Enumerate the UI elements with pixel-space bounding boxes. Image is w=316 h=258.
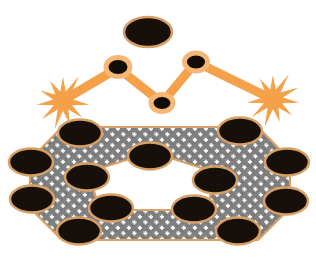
ellipse-top-right [218, 118, 262, 145]
node-peak-right [185, 53, 208, 71]
ellipse-top-left [58, 120, 102, 147]
node-valley-middle [151, 95, 173, 112]
ellipse-bottom-right [216, 218, 260, 245]
abstract-shape-composition [0, 0, 316, 258]
ellipse-inner-right [193, 167, 237, 194]
ellipse-inner-bot-right [172, 196, 216, 223]
ellipse-left-upper [9, 149, 53, 176]
ellipse-right-lower [264, 188, 308, 215]
ellipse-bottom-left [57, 218, 101, 245]
ellipse-inner-left [65, 164, 109, 191]
node-peak-left [106, 58, 130, 77]
ellipse-right-upper [265, 149, 309, 176]
zigzag-connector [62, 53, 272, 112]
ellipse-inner-bot-left [89, 195, 133, 222]
figure-canvas [0, 0, 316, 258]
top-ellipse [124, 17, 172, 47]
ellipse-inner-top [128, 143, 172, 170]
ellipse-left-lower [10, 186, 54, 213]
